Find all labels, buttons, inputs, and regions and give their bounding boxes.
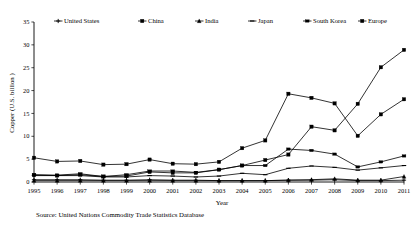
x-tick-label: 2008 — [328, 187, 341, 194]
legend-label: Europe — [368, 17, 387, 24]
x-tick-label: 2009 — [351, 187, 364, 194]
y-tick-label: 5 — [26, 155, 29, 162]
legend-item-japan[interactable]: Japan — [248, 17, 274, 24]
y-tick-label: 15 — [23, 110, 29, 117]
x-tick-label: 2004 — [236, 187, 250, 194]
x-tick-label: 1995 — [28, 187, 41, 194]
chart-canvas: United StatesChinaIndiaJapanSouth KoreaE… — [0, 0, 412, 226]
x-tick-label: 2005 — [259, 187, 272, 194]
y-tick-label: 0 — [26, 178, 29, 185]
series-europe — [32, 92, 405, 166]
x-tick-label: 2006 — [282, 187, 295, 194]
x-tick-label: 2001 — [166, 187, 179, 194]
x-tick-label: 2003 — [213, 187, 226, 194]
legend-label: South Korea — [313, 17, 346, 24]
x-tick-label: 1999 — [120, 187, 133, 194]
legend-item-china[interactable]: China — [138, 17, 164, 24]
chart-axis-labels: 0510152025303519951996199719981999200020… — [23, 18, 410, 193]
x-tick-label: 2010 — [374, 187, 387, 194]
y-tick-label: 35 — [23, 18, 29, 25]
y-tick-label: 25 — [23, 64, 29, 71]
y-tick-label: 30 — [23, 41, 29, 48]
y-tick-label: 10 — [23, 132, 29, 139]
x-tick-label: 2000 — [143, 187, 156, 194]
legend-item-europe[interactable]: Europe — [358, 17, 387, 24]
x-tick-label: 2011 — [398, 187, 411, 194]
chart-legend: United StatesChinaIndiaJapanSouth KoreaE… — [54, 17, 387, 24]
x-tick-label: 1996 — [51, 187, 64, 194]
legend-label: United States — [64, 17, 100, 24]
x-tick-label: 1997 — [74, 187, 88, 194]
x-tick-label: 2007 — [305, 187, 319, 194]
copper-trade-line-chart: United StatesChinaIndiaJapanSouth KoreaE… — [0, 0, 412, 226]
chart-series-group — [32, 48, 406, 183]
legend-label: India — [205, 17, 219, 24]
legend-label: China — [148, 17, 164, 24]
legend-item-india[interactable]: India — [195, 17, 219, 24]
legend-item-united-states[interactable]: United States — [54, 17, 100, 24]
x-tick-label: 1998 — [97, 187, 110, 194]
legend-item-south-korea[interactable]: South Korea — [303, 17, 346, 24]
series-china — [32, 48, 405, 178]
x-axis-title: Year — [216, 199, 229, 206]
source-note: Source: United Nations Commodity Trade S… — [36, 211, 204, 218]
y-tick-label: 20 — [23, 87, 29, 94]
x-tick-label: 2002 — [189, 187, 202, 194]
y-axis-title: Copper (U.S. billion ) — [8, 73, 16, 132]
legend-label: Japan — [258, 17, 274, 24]
